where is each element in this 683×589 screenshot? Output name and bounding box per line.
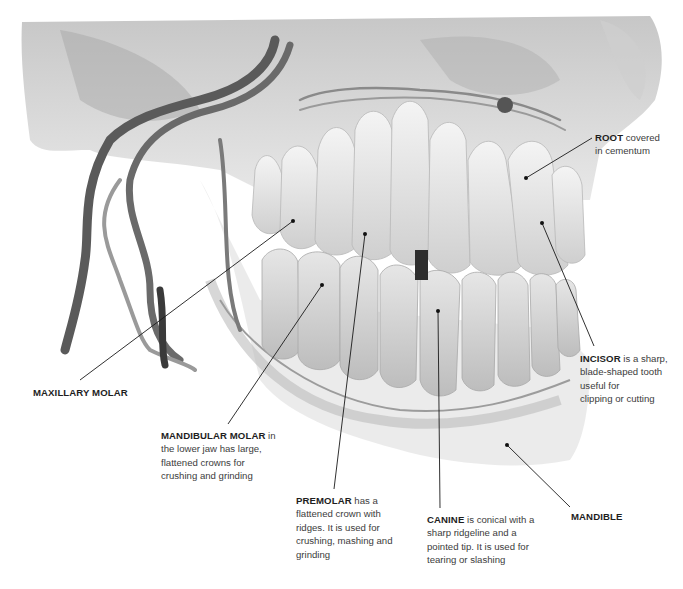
label-mandibular-molar: MANDIBULAR MOLAR in the lower jaw has la…	[161, 429, 276, 483]
label-incisor: INCISOR is a sharp, blade-shaped tooth u…	[580, 352, 668, 406]
label-mandible: MANDIBLE	[571, 510, 622, 523]
label-maxillary-molar: MAXILLARY MOLAR	[33, 386, 128, 399]
label-premolar: PREMOLAR has a flattened crown with ridg…	[296, 494, 393, 561]
label-canine: CANINE is conical with a sharp ridgeline…	[427, 513, 534, 567]
label-root: ROOT covered in cementum	[595, 131, 660, 158]
